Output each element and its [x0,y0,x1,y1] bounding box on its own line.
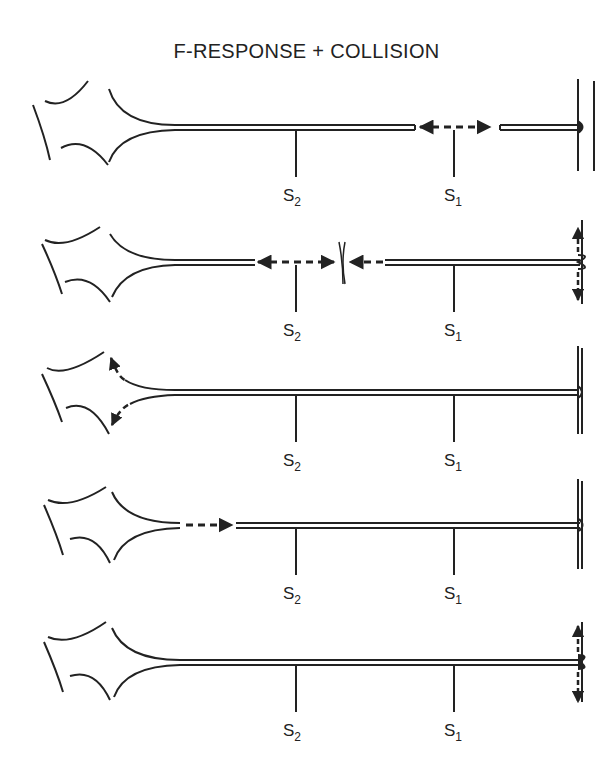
panel-1-s1-label: S1 [444,186,462,209]
panel-2-s2-label: S2 [283,321,301,344]
panel-4 [44,479,583,575]
s1-subscript: 1 [455,195,462,209]
panel-4-s1-label: S1 [444,584,462,607]
s1-letter: S [444,584,455,603]
panel-2 [42,220,585,312]
panel-1-s2-label: S2 [283,186,301,209]
panel-5 [44,622,585,712]
s1-subscript: 1 [455,593,462,607]
s2-subscript: 2 [294,460,301,474]
s1-letter: S [444,321,455,340]
panel-4-s2-label: S2 [283,584,301,607]
s2-letter: S [283,451,294,470]
s2-letter: S [283,584,294,603]
s1-subscript: 1 [455,330,462,344]
s2-subscript: 2 [294,330,301,344]
s1-letter: S [444,451,455,470]
s1-subscript: 1 [455,730,462,744]
panel-2-s1-label: S1 [444,321,462,344]
s1-letter: S [444,186,455,205]
s2-subscript: 2 [294,195,301,209]
s1-letter: S [444,721,455,740]
s1-subscript: 1 [455,460,462,474]
panel-5-s1-label: S1 [444,721,462,744]
s2-letter: S [283,186,294,205]
s2-letter: S [283,321,294,340]
s2-subscript: 2 [294,593,301,607]
s2-subscript: 2 [294,730,301,744]
panel-3 [42,346,582,442]
s2-letter: S [283,721,294,740]
panel-3-s2-label: S2 [283,451,301,474]
panel-5-s2-label: S2 [283,721,301,744]
panel-1 [33,79,594,177]
panel-3-s1-label: S1 [444,451,462,474]
neuron-collision-diagram [0,0,613,783]
